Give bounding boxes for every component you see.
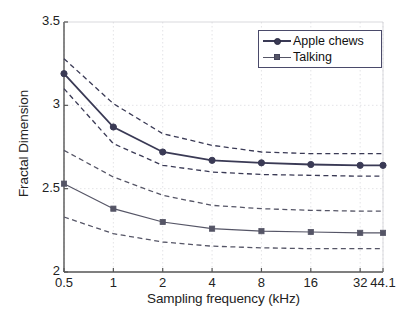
series-marker[interactable] — [110, 124, 116, 130]
series-marker[interactable] — [259, 229, 264, 234]
series-marker[interactable] — [308, 161, 314, 167]
chart-figure: Fractal Dimension Sampling frequency (kH… — [0, 0, 406, 322]
series-marker[interactable] — [380, 230, 385, 235]
y-tick-label: 2.5 — [42, 180, 60, 195]
x-tick-label: 4 — [208, 275, 215, 290]
series-marker[interactable] — [61, 181, 66, 186]
legend-item-apple-chews: Apple chews — [263, 33, 364, 49]
series-marker[interactable] — [160, 149, 166, 155]
series-marker[interactable] — [160, 219, 165, 224]
legend-item-talking: Talking — [263, 49, 332, 65]
x-tick-label: 1 — [110, 275, 117, 290]
series-marker[interactable] — [61, 71, 67, 77]
x-tick-label: 32 — [353, 275, 367, 290]
series-marker[interactable] — [380, 162, 386, 168]
legend-swatch-square-line-icon — [263, 51, 291, 63]
legend-label: Talking — [293, 50, 332, 64]
x-tick-label: 2 — [159, 275, 166, 290]
series-marker[interactable] — [209, 157, 215, 163]
y-tick-label: 3.5 — [42, 13, 60, 28]
x-tick-label: 16 — [304, 275, 318, 290]
y-tick-label: 3 — [53, 96, 60, 111]
series-upper-bound-line — [64, 59, 383, 154]
series-upper-bound-line — [64, 150, 383, 211]
x-tick-label: 0.5 — [55, 275, 73, 290]
series-marker[interactable] — [111, 206, 116, 211]
series-marker[interactable] — [258, 160, 264, 166]
x-tick-label: 44.1 — [370, 275, 395, 290]
series-mean-line — [64, 74, 383, 166]
legend-label: Apple chews — [293, 34, 364, 48]
series-marker[interactable] — [357, 162, 363, 168]
series-marker[interactable] — [209, 226, 214, 231]
series-marker[interactable] — [358, 230, 363, 235]
y-axis-label: Fractal Dimension — [16, 59, 31, 229]
series-marker[interactable] — [308, 229, 313, 234]
chart-legend: Apple chews Talking — [258, 30, 382, 68]
x-tick-label: 8 — [258, 275, 265, 290]
legend-swatch-circle-line-icon — [263, 35, 291, 47]
x-axis-label: Sampling frequency (kHz) — [64, 291, 383, 306]
